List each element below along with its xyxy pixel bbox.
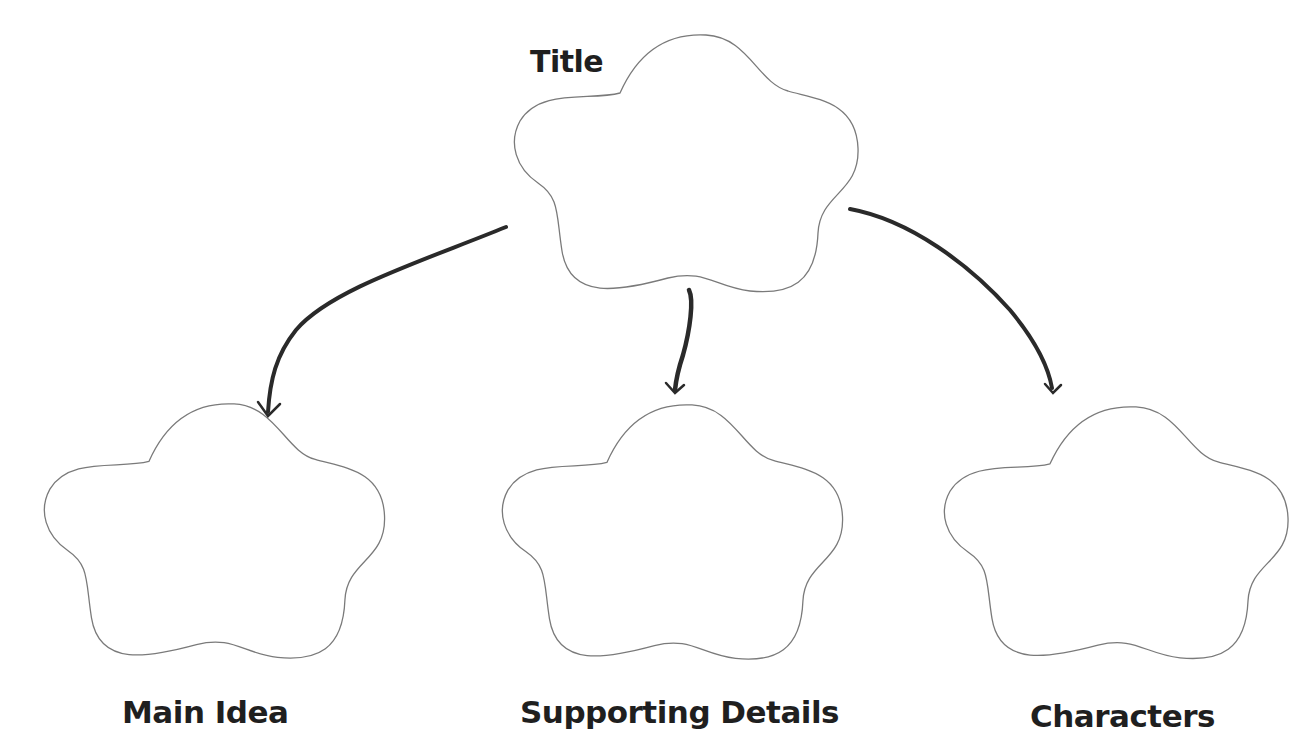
arrow-to-supporting-details: [666, 290, 691, 393]
arrow-to-main-idea: [258, 227, 506, 416]
arrow-to-characters: [850, 209, 1061, 393]
main-idea-label: Main Idea: [122, 697, 288, 728]
title-label: Title: [530, 47, 603, 77]
main-idea-flower-shape: [44, 404, 384, 658]
diagram-canvas: [0, 0, 1316, 737]
characters-flower-shape: [944, 407, 1288, 659]
supporting-details-flower-shape: [502, 405, 842, 659]
supporting-details-label: Supporting Details: [520, 697, 839, 728]
characters-label: Characters: [1030, 701, 1215, 732]
